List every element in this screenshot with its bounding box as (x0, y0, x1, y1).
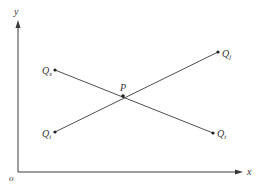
point-qj-dot (216, 50, 219, 53)
origin-label: o (9, 173, 14, 183)
point-qs-dot (53, 68, 56, 71)
background (0, 0, 262, 185)
label-p: P (119, 82, 126, 93)
y-axis-label: y (13, 6, 19, 17)
intersection-diagram: y x o Qs Qj Qi Qt P (0, 0, 262, 185)
point-p-dot (121, 94, 125, 98)
point-qt-dot (211, 131, 214, 134)
x-axis-label: x (246, 166, 252, 177)
point-qi-dot (53, 130, 56, 133)
